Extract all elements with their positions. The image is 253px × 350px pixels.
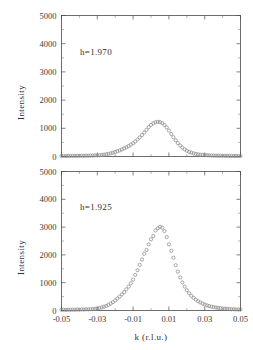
data-point xyxy=(212,154,215,157)
data-point xyxy=(75,154,78,157)
data-point xyxy=(190,151,193,154)
top-panel-y-tick-labels: 010002000300040005000 xyxy=(40,11,57,162)
data-point xyxy=(163,229,166,232)
data-point xyxy=(201,302,204,305)
data-point xyxy=(62,154,65,157)
data-point xyxy=(64,308,67,311)
data-point xyxy=(127,144,130,147)
data-point xyxy=(192,152,195,155)
data-point xyxy=(237,308,240,311)
data-point xyxy=(147,243,150,246)
data-point xyxy=(223,154,226,157)
data-point xyxy=(82,308,85,311)
data-point xyxy=(98,306,101,309)
data-point xyxy=(190,294,193,297)
data-point xyxy=(102,153,105,156)
top-panel-y-axis-title: Intensity xyxy=(16,85,26,120)
data-point xyxy=(64,154,67,157)
data-point xyxy=(156,120,159,123)
data-point xyxy=(134,140,137,143)
data-point xyxy=(196,153,199,156)
data-point xyxy=(73,154,76,157)
data-point xyxy=(114,299,117,302)
data-point xyxy=(109,152,112,155)
data-point xyxy=(91,308,94,311)
data-point xyxy=(176,142,179,145)
data-point xyxy=(219,307,222,310)
intensity-scan-chart: 010002000300040005000 h=1.970 Intensity … xyxy=(0,0,253,350)
data-point xyxy=(170,249,173,252)
data-point xyxy=(154,121,157,124)
data-point xyxy=(96,154,99,157)
data-point xyxy=(78,308,81,311)
data-point xyxy=(201,153,204,156)
data-point xyxy=(91,154,94,157)
top-panel-annotation: h=1.970 xyxy=(80,47,112,57)
top-panel-frame xyxy=(62,16,241,157)
data-point xyxy=(176,270,179,273)
data-point xyxy=(60,308,63,311)
data-point xyxy=(205,304,208,307)
data-point xyxy=(118,149,121,152)
y-tick-label: 0 xyxy=(52,306,56,316)
bottom-panel-x-tick-labels: -0.05-0.03-0.010.010.030.05 xyxy=(53,314,248,324)
y-tick-label: 5000 xyxy=(40,167,57,177)
data-point xyxy=(129,282,132,285)
data-point xyxy=(188,150,191,153)
data-point xyxy=(143,131,146,134)
data-point xyxy=(125,288,128,291)
data-point xyxy=(145,248,148,251)
data-point xyxy=(129,143,132,146)
data-point xyxy=(89,154,92,157)
x-axis-title: k (r.l.u.) xyxy=(135,332,168,342)
data-point xyxy=(136,138,139,141)
data-point xyxy=(230,308,233,311)
data-point xyxy=(114,150,117,153)
data-point xyxy=(181,146,184,149)
data-point xyxy=(165,236,168,239)
y-tick-label: 3000 xyxy=(40,67,57,77)
data-point xyxy=(172,256,175,259)
data-point xyxy=(217,154,220,157)
y-tick-label: 4000 xyxy=(40,39,57,49)
bottom-panel-ticks xyxy=(62,172,241,311)
data-point xyxy=(225,307,228,310)
data-point xyxy=(221,154,224,157)
data-point xyxy=(93,307,96,310)
data-point xyxy=(230,154,233,157)
x-tick-label: 0.01 xyxy=(161,314,176,324)
y-tick-label: 1000 xyxy=(40,278,57,288)
data-point xyxy=(62,308,65,311)
y-tick-label: 5000 xyxy=(40,11,57,21)
data-point xyxy=(158,225,161,228)
y-tick-label: 3000 xyxy=(40,222,57,232)
data-point xyxy=(105,153,108,156)
data-point xyxy=(132,142,135,145)
data-point xyxy=(67,154,70,157)
data-point xyxy=(174,264,177,267)
bottom-panel-annotation: h=1.925 xyxy=(80,202,112,212)
data-point xyxy=(185,289,188,292)
data-point xyxy=(80,308,83,311)
data-point xyxy=(96,307,99,310)
data-point xyxy=(82,154,85,157)
x-tick-label: 0.05 xyxy=(233,314,248,324)
data-point xyxy=(158,121,161,124)
data-point xyxy=(75,308,78,311)
data-point xyxy=(87,308,90,311)
data-point xyxy=(109,302,112,305)
data-point xyxy=(225,154,228,157)
data-point xyxy=(174,139,177,142)
y-tick-label: 1000 xyxy=(40,123,57,133)
data-point xyxy=(149,238,152,241)
bottom-panel: 010002000300040005000 -0.05-0.03-0.010.0… xyxy=(16,167,248,343)
data-point xyxy=(156,227,159,230)
x-tick-label: -0.05 xyxy=(53,314,71,324)
data-point xyxy=(163,123,166,126)
data-point xyxy=(69,154,72,157)
data-point xyxy=(123,291,126,294)
data-point xyxy=(152,122,155,125)
data-point xyxy=(138,263,141,266)
data-point xyxy=(111,301,114,304)
bottom-panel-frame xyxy=(62,172,241,311)
